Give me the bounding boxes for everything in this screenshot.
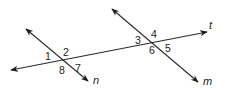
line-m [112,9,198,82]
line-label-m: m [203,75,212,87]
angle-label-5: 5 [165,42,171,54]
transversal-diagram: 12873465 tnm [0,0,225,88]
angle-label-3: 3 [135,34,141,46]
angle-label-8: 8 [59,64,65,76]
line-label-n: n [93,74,99,86]
line-label-t: t [209,19,213,31]
angle-label-6: 6 [149,44,155,56]
angle-labels-group: 12873465 [45,28,171,76]
lines-group [11,9,207,82]
angle-label-2: 2 [63,46,69,58]
angle-label-4: 4 [151,28,157,40]
angle-label-7: 7 [75,62,81,74]
angle-label-1: 1 [45,50,51,62]
